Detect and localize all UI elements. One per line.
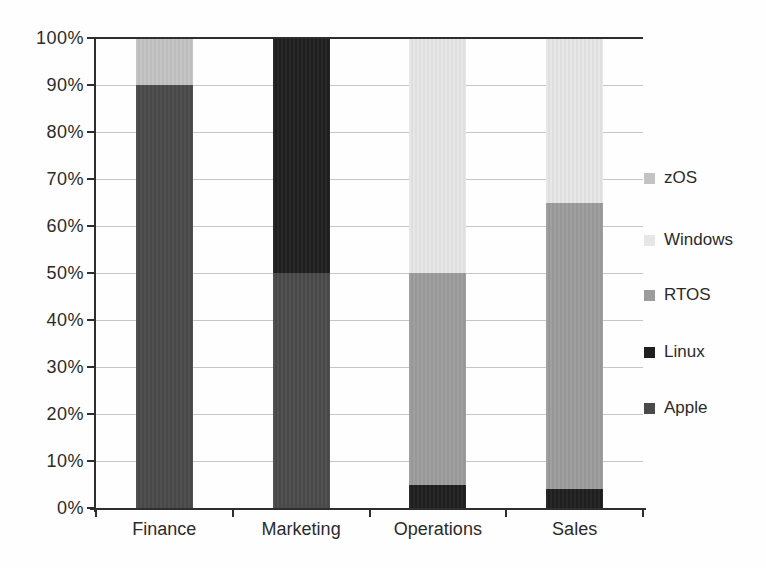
x-tick-4 bbox=[642, 509, 644, 517]
y-axis-label-60-: 60% bbox=[14, 216, 84, 236]
legend-item-linux: Linux bbox=[644, 342, 705, 362]
legend-swatch-rtos bbox=[644, 290, 655, 301]
legend-label-rtos: RTOS bbox=[664, 285, 711, 305]
legend-item-zos: zOS bbox=[644, 168, 697, 188]
bar-sales bbox=[546, 38, 603, 508]
bar-segment-sales-windows bbox=[546, 38, 603, 203]
y-tick-80- bbox=[87, 131, 95, 133]
legend-label-apple: Apple bbox=[664, 398, 707, 418]
y-tick-60- bbox=[87, 225, 95, 227]
y-axis-label-100-: 100% bbox=[14, 28, 84, 48]
bar-marketing bbox=[273, 38, 330, 508]
bar-operations bbox=[409, 38, 466, 508]
y-axis-label-40-: 40% bbox=[14, 310, 84, 330]
y-tick-20- bbox=[87, 413, 95, 415]
legend-item-windows: Windows bbox=[644, 230, 733, 250]
plot-area bbox=[96, 38, 643, 508]
bar-segment-finance-apple bbox=[136, 85, 193, 508]
y-tick-90- bbox=[87, 84, 95, 86]
bar-segment-sales-linux bbox=[546, 489, 603, 508]
y-axis-label-50-: 50% bbox=[14, 263, 84, 283]
y-axis-line bbox=[94, 38, 96, 512]
bar-segment-sales-rtos bbox=[546, 203, 603, 490]
y-tick-30- bbox=[87, 366, 95, 368]
y-axis-label-30-: 30% bbox=[14, 357, 84, 377]
legend-swatch-windows bbox=[644, 235, 655, 246]
bar-segment-operations-windows bbox=[409, 38, 466, 273]
x-axis-label-operations: Operations bbox=[368, 518, 508, 540]
legend-label-zos: zOS bbox=[664, 168, 697, 188]
x-tick-0 bbox=[95, 509, 97, 517]
x-tick-3 bbox=[505, 509, 507, 517]
x-axis-label-marketing: Marketing bbox=[231, 518, 371, 540]
y-axis-label-10-: 10% bbox=[14, 451, 84, 471]
y-tick-0- bbox=[87, 507, 95, 509]
y-axis-label-90-: 90% bbox=[14, 75, 84, 95]
y-tick-50- bbox=[87, 272, 95, 274]
legend-swatch-zos bbox=[644, 173, 655, 184]
y-axis-label-0-: 0% bbox=[14, 498, 84, 518]
x-axis-label-finance: Finance bbox=[94, 518, 234, 540]
legend-label-linux: Linux bbox=[664, 342, 705, 362]
gridline-100- bbox=[89, 37, 643, 39]
bar-segment-marketing-apple bbox=[273, 273, 330, 508]
bar-segment-operations-linux bbox=[409, 485, 466, 509]
bar-segment-marketing-linux bbox=[273, 38, 330, 273]
legend-label-windows: Windows bbox=[664, 230, 733, 250]
x-tick-1 bbox=[232, 509, 234, 517]
y-axis-label-20-: 20% bbox=[14, 404, 84, 424]
y-tick-40- bbox=[87, 319, 95, 321]
legend-swatch-apple bbox=[644, 403, 655, 414]
legend-item-rtos: RTOS bbox=[644, 285, 711, 305]
y-axis-label-70-: 70% bbox=[14, 169, 84, 189]
y-tick-10- bbox=[87, 460, 95, 462]
legend-swatch-linux bbox=[644, 347, 655, 358]
y-axis-label-80-: 80% bbox=[14, 122, 84, 142]
legend-item-apple: Apple bbox=[644, 398, 707, 418]
chart-canvas: zOSWindowsRTOSLinuxApple 100%90%80%70%60… bbox=[0, 0, 766, 568]
y-tick-70- bbox=[87, 178, 95, 180]
bar-segment-finance-zos bbox=[136, 38, 193, 85]
bar-segment-operations-rtos bbox=[409, 273, 466, 485]
x-axis-label-sales: Sales bbox=[505, 518, 645, 540]
x-tick-2 bbox=[369, 509, 371, 517]
bar-finance bbox=[136, 38, 193, 508]
